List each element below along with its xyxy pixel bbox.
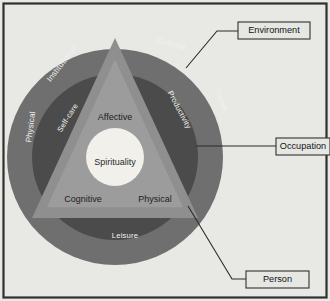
callout-label-person: Person [263, 274, 292, 284]
peo-diagram-figure: InstitutionalCulturalSocialPhysicalSelf-… [0, 0, 330, 301]
callout-label-environment: Environment [248, 25, 300, 35]
occupation-label-2: Leisure [112, 231, 138, 240]
person-label-1: Cognitive [64, 194, 102, 204]
peo-diagram-svg: InstitutionalCulturalSocialPhysicalSelf-… [0, 0, 330, 301]
person-label-0: Affective [98, 112, 132, 122]
person-label-2: Physical [138, 194, 172, 204]
spirituality-label: Spirituality [94, 157, 136, 167]
callout-label-occupation: Occupation [280, 141, 326, 151]
